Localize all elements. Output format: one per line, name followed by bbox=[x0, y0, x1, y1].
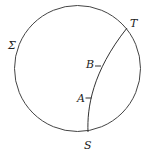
label-s: S bbox=[84, 139, 92, 152]
label-t: T bbox=[130, 17, 139, 30]
label-a: A bbox=[76, 92, 85, 105]
circle-sigma bbox=[15, 6, 141, 132]
label-sigma: Σ bbox=[7, 39, 16, 52]
arc-s-to-t bbox=[88, 28, 127, 132]
diagram-canvas: Σ T B A S bbox=[0, 0, 153, 156]
label-b: B bbox=[85, 58, 94, 71]
diagram-figure: Σ T B A S bbox=[0, 0, 153, 156]
